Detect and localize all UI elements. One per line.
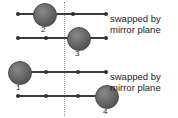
atom-node <box>16 36 20 40</box>
highlighted-atom-2 <box>33 3 57 27</box>
bond-segment <box>18 95 106 97</box>
annotation-note-bottom: swapped by mirror plane <box>110 71 161 93</box>
atom-node <box>104 36 108 40</box>
atom-node <box>44 94 48 98</box>
highlighted-atom-3 <box>67 27 91 51</box>
annotation-line-2: mirror plane <box>110 24 161 35</box>
atom-label-3: 3 <box>75 50 79 58</box>
bond-segment <box>18 37 106 39</box>
atom-node <box>76 94 80 98</box>
atom-node <box>16 94 20 98</box>
atom-node <box>71 12 75 16</box>
annotation-line-1: swapped by <box>110 13 161 24</box>
annotation-line-1: swapped by <box>110 71 161 82</box>
atom-node <box>44 70 48 74</box>
atom-node <box>104 70 108 74</box>
atom-node <box>44 36 48 40</box>
diagram-canvas: 2 3 1 4 swapped by mirror plane swapped … <box>0 0 178 118</box>
atom-node <box>104 12 108 16</box>
atom-label-2: 2 <box>41 26 45 34</box>
mirror-plane-line <box>64 2 65 116</box>
atom-label-1: 1 <box>16 84 20 92</box>
atom-label-4: 4 <box>103 108 107 116</box>
annotation-note-top: swapped by mirror plane <box>110 13 161 35</box>
atom-node <box>76 70 80 74</box>
bond-segment <box>18 13 106 15</box>
highlighted-atom-1 <box>8 61 32 85</box>
atom-node <box>16 12 20 16</box>
annotation-line-2: mirror plane <box>110 82 161 93</box>
